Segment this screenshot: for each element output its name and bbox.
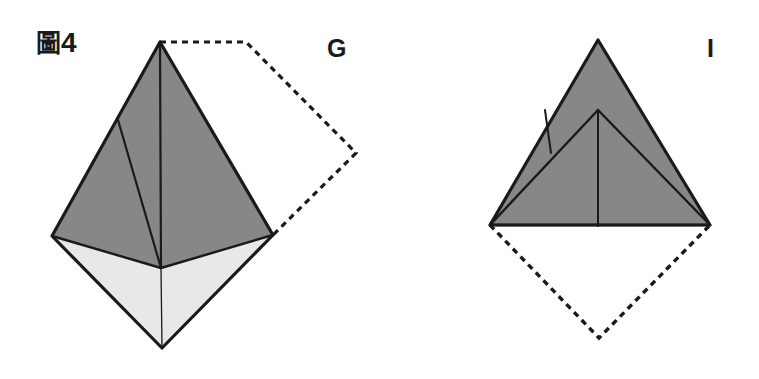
panel-g-upper-right-shaded-face <box>160 42 273 268</box>
figure-page: 圖4 G I <box>0 0 759 379</box>
panel-i-dashed-ghost-outline <box>490 225 710 338</box>
panel-g-label: G <box>327 36 346 61</box>
panel-i-main-triangle-shaded-face <box>490 40 710 225</box>
panel-g-figure <box>52 42 356 348</box>
figure-caption-prefix: 圖 <box>36 29 61 58</box>
panel-i-label: I <box>707 36 714 61</box>
panel-g-upper-left-shaded-face <box>52 42 161 268</box>
panel-g-center-vertical-fold <box>160 42 161 268</box>
panel-i-figure <box>490 40 710 338</box>
origami-figure-diagram <box>0 0 759 379</box>
figure-number-value: 4 <box>61 27 77 58</box>
figure-number-label: 圖4 <box>36 29 77 57</box>
